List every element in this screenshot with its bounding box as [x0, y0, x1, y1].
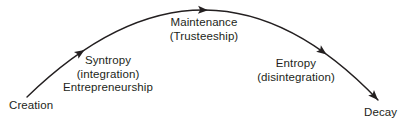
- maintenance-label-line1: Maintenance: [144, 16, 264, 30]
- entropy-label-line2: (disintegration): [226, 71, 366, 85]
- syntropy-label-line2: (integration): [38, 68, 178, 82]
- entropy-label-line1: Entropy: [226, 57, 366, 71]
- maintenance-label: Maintenance (Trusteeship): [144, 16, 264, 43]
- maintenance-label-line2: (Trusteeship): [144, 30, 264, 44]
- entropy-label: Entropy (disintegration): [226, 57, 366, 84]
- lifecycle-diagram: Creation Syntropy (integration) Entrepre…: [0, 0, 404, 127]
- syntropy-label-line1: Syntropy: [38, 54, 178, 68]
- syntropy-label-line3: Entrepreneurship: [38, 81, 178, 95]
- decay-label: Decay: [364, 106, 397, 120]
- creation-label: Creation: [9, 99, 53, 113]
- syntropy-label: Syntropy (integration) Entrepreneurship: [38, 54, 178, 95]
- arrowhead-descending-icon: [316, 45, 329, 57]
